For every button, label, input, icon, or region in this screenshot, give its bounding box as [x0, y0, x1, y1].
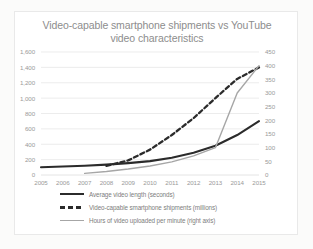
legend-label: Video-capable smartphone shipments (mill… — [89, 204, 217, 211]
y-axis-left-tick: 1,400 — [9, 64, 35, 71]
legend-item-smartphone-shipments: Video-capable smartphone shipments (mill… — [60, 201, 270, 213]
x-axis-tick: 2005 — [29, 179, 53, 186]
y-axis-left-tick: 1,000 — [9, 95, 35, 102]
y-axis-right-tick: 150 — [265, 130, 291, 137]
y-axis-left-tick: 200 — [9, 156, 35, 163]
y-axis-right-tick: 200 — [265, 117, 291, 124]
solid-thick-line-key — [60, 190, 84, 198]
legend-item-hours-uploaded: Hours of video uploaded per minute (righ… — [60, 214, 270, 226]
y-axis-right-tick: 100 — [265, 144, 291, 151]
y-axis-right-tick: 300 — [265, 89, 291, 96]
y-axis-left-tick: 1,600 — [9, 48, 35, 55]
x-axis-tick: 2013 — [203, 179, 227, 186]
y-axis-right-tick: 50 — [265, 158, 291, 165]
x-axis-tick: 2015 — [247, 179, 271, 186]
y-axis-left-tick: 0 — [9, 171, 35, 178]
y-axis-left-tick: 800 — [9, 110, 35, 117]
chart-legend: Average video length (seconds) Video-cap… — [60, 188, 270, 227]
legend-label: Hours of video uploaded per minute (righ… — [89, 217, 215, 224]
x-axis-tick: 2012 — [182, 179, 206, 186]
gridlines — [41, 52, 259, 175]
dashed-line-key — [60, 203, 84, 211]
x-axis-tick: 2011 — [160, 179, 184, 186]
y-axis-right-tick: 350 — [265, 76, 291, 83]
legend-item-average-video-length: Average video length (seconds) — [60, 188, 270, 200]
series-layer — [41, 66, 259, 174]
x-axis-tick: 2007 — [73, 179, 97, 186]
x-axis-tick: 2008 — [94, 179, 118, 186]
y-axis-left-tick: 1,200 — [9, 79, 35, 86]
series-line-1 — [106, 67, 259, 165]
y-axis-left-tick: 600 — [9, 125, 35, 132]
legend-label: Average video length (seconds) — [89, 191, 174, 198]
y-axis-right-tick: 250 — [265, 103, 291, 110]
x-axis-tick: 2009 — [116, 179, 140, 186]
x-axis-tick: 2014 — [225, 179, 249, 186]
y-axis-right-tick: 450 — [265, 48, 291, 55]
x-axis-tick: 2010 — [138, 179, 162, 186]
y-axis-right-tick: 400 — [265, 62, 291, 69]
x-axis-tick: 2006 — [51, 179, 75, 186]
thin-line-key — [60, 216, 84, 224]
y-axis-right-tick: 0 — [265, 171, 291, 178]
y-axis-left-tick: 400 — [9, 141, 35, 148]
